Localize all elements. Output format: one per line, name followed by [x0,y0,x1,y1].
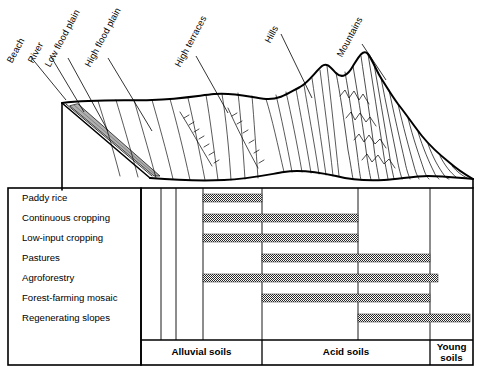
bar-continuous-cropping [203,214,358,222]
soil-band-label-acid-soils: Acid soils [262,347,430,358]
row-label-pastures: Pastures [22,253,60,263]
bar-regenerating-slopes [358,314,470,322]
row-label-continuous-cropping: Continuous cropping [22,213,110,223]
row-label-agroforestry: Agroforestry [22,273,74,283]
bar-low-input-cropping [203,234,358,242]
bar-forest-farming-mosaic [262,294,430,302]
block-diagram-figure: BeachRiverLow flood plainHigh flood plai… [0,0,483,376]
row-label-paddy-rice: Paddy rice [22,193,67,203]
row-label-low-input-cropping: Low-input cropping [22,233,103,243]
bar-paddy-rice [203,194,262,202]
row-label-forest-farming-mosaic: Forest-farming mosaic [22,293,117,303]
bar-pastures [262,254,430,262]
soil-band-label-alluvial-soils: Alluvial soils [141,347,262,358]
soil-band-label-young-soils: Young soils [430,342,473,363]
bar-agroforestry [203,274,438,282]
row-label-regenerating-slopes: Regenerating slopes [22,313,110,323]
